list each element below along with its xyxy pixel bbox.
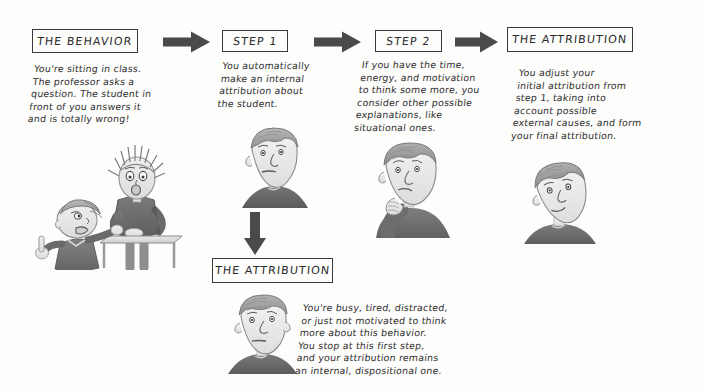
box-the-behavior: THE BEHAVIOR [32,29,138,53]
box-step-2-label: STEP 2 [386,35,432,48]
attribution-diagram: THE BEHAVIOR STEP 1 STEP 2 THE ATTRIBUTI… [0,0,703,392]
box-step-1: STEP 1 [222,30,288,52]
box-step-1-label: STEP 1 [232,35,278,48]
note-step-2: If you have the time, energy, and motiva… [353,59,517,135]
figure-student [108,145,165,268]
note-the-attribution-bottom: You're busy, tired, distracted, or just … [294,302,513,378]
arrow-behavior-to-step1 [163,31,211,53]
box-the-attribution-top-label: THE ATTRIBUTION [512,33,629,46]
box-the-attribution-bottom-label: THE ATTRIBUTION [214,264,331,277]
arrow-step2-to-attribution [455,31,499,53]
box-the-attribution-top: THE ATTRIBUTION [507,27,633,52]
note-the-behavior: You're sitting in class. The professor a… [27,63,220,126]
note-the-attribution-top: You adjust your initial attribution from… [510,67,699,143]
arrow-step1-to-attribution-bottom [243,212,267,256]
illustration-attribution-bottom-face [220,290,306,374]
illustration-attribution-top-face [516,158,608,244]
illustration-step2-thinking-face [362,138,466,238]
arrow-step1-to-step2 [314,31,362,53]
illustration-step1-face [232,122,318,208]
figure-professor [36,200,124,270]
box-the-behavior-label: THE BEHAVIOR [37,35,134,48]
box-the-attribution-bottom: THE ATTRIBUTION [212,258,333,283]
illustration-classroom-scene [22,140,207,270]
note-step-1: You automatically make an internal attri… [217,60,353,110]
box-step-2: STEP 2 [375,30,442,52]
